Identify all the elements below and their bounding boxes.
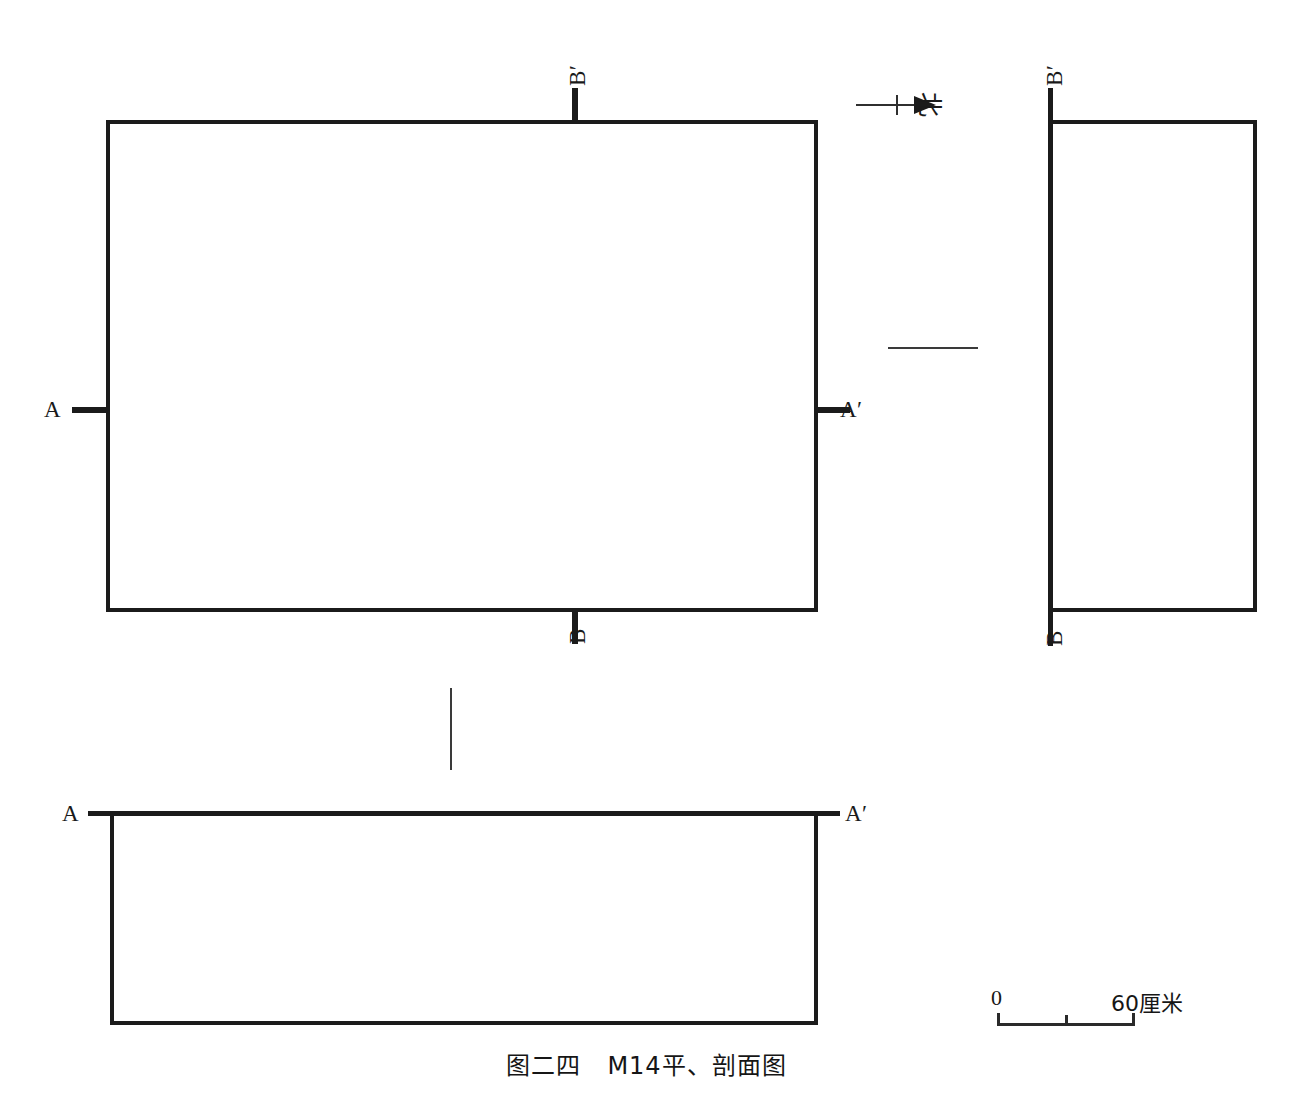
section-aa-outline [110, 813, 818, 1025]
scale-bar-tick-60 [1132, 1013, 1135, 1026]
section-bb-outline [1048, 120, 1257, 612]
north-arrow-character: 北 [914, 92, 950, 117]
section-aa-label-right: A′ [845, 802, 868, 825]
north-arrow: 北 [856, 90, 976, 140]
scale-bar: 0 60厘米 [985, 985, 1205, 1035]
caption-number: 图二四 [506, 1052, 581, 1080]
north-arrow-crossbar [896, 95, 898, 115]
scale-bar-start-label: 0 [991, 985, 1002, 1011]
divider-rule-vertical [450, 688, 452, 770]
plan-label-b-top: B′ [566, 65, 589, 86]
caption-title: M14平、剖面图 [607, 1052, 786, 1080]
scale-bar-tick-0 [997, 1013, 1000, 1026]
plan-label-a-left: A [44, 398, 61, 421]
divider-rule-horizontal [888, 347, 978, 349]
plan-view-outline [106, 120, 818, 612]
archaeological-figure-m14: A A′ B′ B 北 B′ B A A′ 0 60厘米 图二 [0, 0, 1293, 1110]
north-arrow-shaft [856, 104, 918, 106]
figure-caption: 图二四M14平、剖面图 [0, 1046, 1293, 1081]
plan-label-a-right: A′ [840, 398, 863, 421]
plan-label-b-bottom: B [566, 628, 589, 644]
plan-section-tick-b-top [572, 88, 578, 122]
scale-bar-end-label: 60厘米 [1111, 985, 1183, 1017]
section-bb-cut-line [1048, 88, 1053, 646]
plan-section-tick-a-left [72, 407, 106, 413]
section-aa-label-left: A [62, 802, 79, 825]
section-bb-label-top: B′ [1043, 65, 1066, 86]
section-bb-label-bottom: B [1043, 630, 1066, 646]
scale-bar-tick-30 [1065, 1015, 1068, 1026]
section-aa-cut-line [88, 811, 840, 816]
